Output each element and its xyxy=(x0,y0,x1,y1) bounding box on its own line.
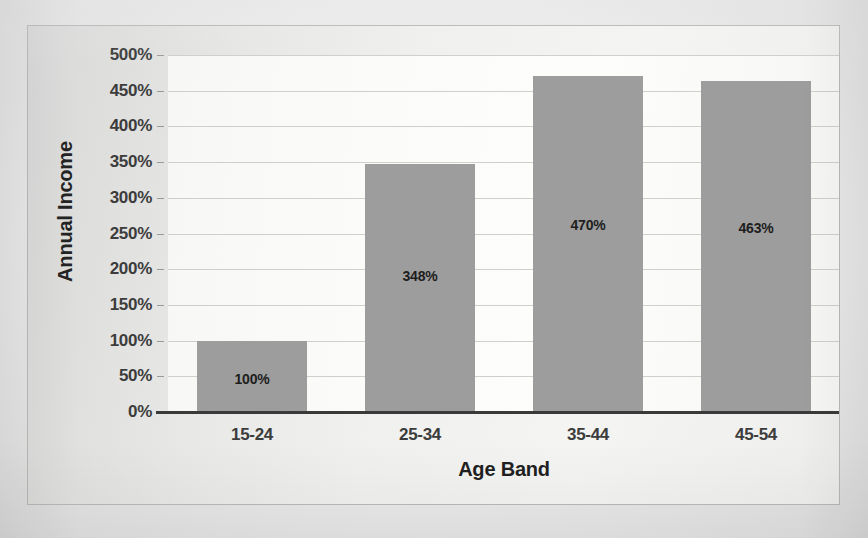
x-axis-tick-label: 25-34 xyxy=(336,425,504,445)
bar[interactable] xyxy=(365,164,475,412)
y-axis-tick-mark xyxy=(157,162,164,163)
y-axis-tick-label: 400% xyxy=(78,116,152,136)
y-axis-tick-label: 0% xyxy=(78,402,152,422)
y-axis-tick-label: 50% xyxy=(78,366,152,386)
x-axis-line xyxy=(156,411,840,414)
y-axis-tick-label: 450% xyxy=(78,81,152,101)
y-axis-tick-label: 200% xyxy=(78,259,152,279)
y-axis-tick-mark xyxy=(157,91,164,92)
y-axis-tick-mark xyxy=(157,376,164,377)
y-axis-title: Annual Income xyxy=(54,112,77,312)
y-axis-tick-mark xyxy=(157,198,164,199)
y-axis-tick-label: 100% xyxy=(78,331,152,351)
y-axis-tick-label: 150% xyxy=(78,295,152,315)
bar-data-label: 348% xyxy=(365,268,475,284)
bar[interactable] xyxy=(701,81,811,412)
y-axis-tick-mark xyxy=(157,126,164,127)
y-axis-tick-mark xyxy=(157,341,164,342)
gridline xyxy=(168,55,840,56)
chart-frame: Annual Income 100%348%470%463% 0%50%100%… xyxy=(27,25,840,505)
bar-data-label: 463% xyxy=(701,220,811,236)
y-axis-tick-mark xyxy=(157,269,164,270)
x-axis-title: Age Band xyxy=(168,458,840,481)
plot-area: 100%348%470%463% xyxy=(168,55,840,412)
y-axis-tick-mark xyxy=(157,234,164,235)
bar-data-label: 470% xyxy=(533,217,643,233)
y-axis-tick-mark xyxy=(157,305,164,306)
x-axis-tick-label: 45-54 xyxy=(672,425,840,445)
bar[interactable] xyxy=(533,76,643,412)
x-axis-tick-label: 15-24 xyxy=(168,425,336,445)
x-axis-tick-label: 35-44 xyxy=(504,425,672,445)
y-axis-tick-mark xyxy=(157,55,164,56)
y-axis-tick-label: 300% xyxy=(78,188,152,208)
y-axis-tick-label: 500% xyxy=(78,45,152,65)
y-axis-tick-label: 250% xyxy=(78,224,152,244)
bar-data-label: 100% xyxy=(197,371,307,387)
y-axis-tick-label: 350% xyxy=(78,152,152,172)
